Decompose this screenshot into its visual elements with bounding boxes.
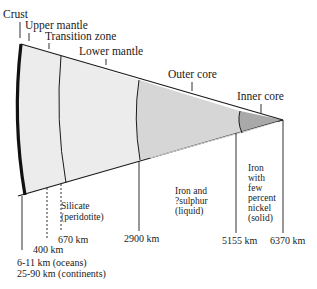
label-lower-mantle: Lower mantle <box>79 45 143 57</box>
label-inner-core-composition-6: (solid) <box>248 213 273 224</box>
label-depth-400km: 400 km <box>33 244 64 255</box>
label-mantle-composition-1: Silicate <box>61 201 90 211</box>
label-outer-core-composition-3: (liquid) <box>175 206 204 217</box>
label-inner-core-composition-1: Iron <box>248 163 264 173</box>
outer-core-region <box>136 80 242 160</box>
label-inner-core: Inner core <box>237 90 284 102</box>
label-outer-core-composition-2: ?sulphur <box>175 196 209 206</box>
label-mantle-composition-2: (peridotite) <box>61 212 104 223</box>
mantle-region <box>17 44 140 195</box>
label-outer-core: Outer core <box>168 68 217 80</box>
label-inner-core-composition-2: with <box>248 173 265 183</box>
label-depth-2900km: 2900 km <box>124 233 160 244</box>
label-inner-core-composition-3: few <box>248 183 262 193</box>
label-inner-core-composition-4: percent <box>248 193 276 203</box>
label-depth-5155km: 5155 km <box>222 235 258 246</box>
label-inner-core-composition-5: nickel <box>248 203 272 213</box>
label-transition-zone: Transition zone <box>45 30 116 42</box>
earth-structure-diagram: Crust Upper mantle Transition zone Lower… <box>0 0 317 289</box>
label-crust-continents: 25-90 km (continents) <box>17 268 106 280</box>
label-depth-6370km: 6370 km <box>270 235 306 246</box>
label-outer-core-composition-1: Iron and <box>175 186 207 196</box>
